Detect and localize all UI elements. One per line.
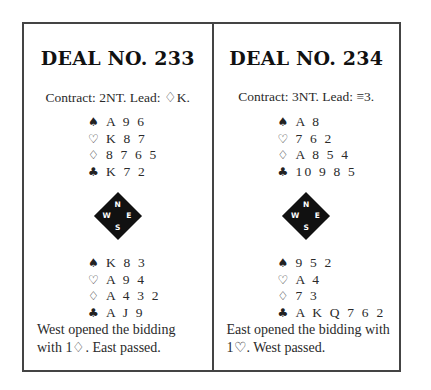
compass-west-label: W: [290, 211, 300, 220]
cards-clubs: 10 9 8 5: [296, 164, 357, 181]
hand-row-diamonds: ♢ A 8 5 4: [276, 147, 357, 164]
spade-icon: ♠: [86, 114, 101, 131]
hand-row-hearts: ♡ A 4: [276, 272, 386, 289]
hand-row-hearts: ♡ 7 6 2: [276, 131, 357, 148]
deal-title: DEAL NO. 233: [24, 47, 212, 69]
diamond-icon: ♢: [86, 147, 101, 164]
bidding-note: East opened the bidding with 1♡. West pa…: [227, 321, 392, 357]
cards-spades: K 8 3: [106, 255, 147, 272]
hand-row-spades: ♠ A 8: [276, 114, 357, 131]
spade-icon: ♠: [86, 255, 101, 272]
bidding-note: West opened the bidding with 1♢. East pa…: [37, 321, 204, 357]
north-hand: ♠ A 8 ♡ 7 6 2 ♢ A 8 5 4 ♣ 10 9 8 5: [276, 114, 357, 180]
diamond-icon: ♢: [276, 288, 291, 305]
hand-row-clubs: ♣ K 7 2: [86, 164, 159, 181]
compass-north-label: N: [113, 200, 123, 209]
hand-row-clubs: ♣ 10 9 8 5: [276, 164, 357, 181]
cards-clubs: K 7 2: [106, 164, 147, 181]
heart-icon: ♡: [276, 131, 291, 148]
diamond-icon: ♢: [276, 147, 291, 164]
compass-east-label: E: [124, 211, 134, 220]
spade-icon: ♠: [276, 255, 291, 272]
hand-row-diamonds: ♢ A 4 3 2: [86, 288, 161, 305]
south-hand: ♠ 9 5 2 ♡ A 4 ♢ 7 3 ♣ A K Q 7 6 2: [276, 255, 386, 321]
spade-icon: ♠: [276, 114, 291, 131]
compass-west-label: W: [102, 211, 112, 220]
club-icon: ♣: [86, 164, 101, 181]
hand-row-spades: ♠ 9 5 2: [276, 255, 386, 272]
cards-clubs: A K Q 7 6 2: [296, 305, 386, 322]
cards-clubs: A J 9: [106, 305, 145, 322]
heart-icon: ♡: [86, 272, 101, 289]
compass-south-label: S: [301, 223, 311, 232]
compass-icon: N W E S: [94, 192, 142, 240]
north-hand: ♠ A 9 6 ♡ K 8 7 ♢ 8 7 6 5 ♣ K 7 2: [86, 114, 159, 180]
hand-row-clubs: ♣ A K Q 7 6 2: [276, 305, 386, 322]
deal-panel-234: DEAL NO. 234 Contract: 3NT. Lead: ≡3. ♠ …: [212, 24, 400, 370]
cards-hearts: K 8 7: [106, 131, 147, 148]
deals-frame: DEAL NO. 233 Contract: 2NT. Lead: ♢K. ♠ …: [22, 22, 401, 372]
cards-spades: 9 5 2: [296, 255, 334, 272]
cards-diamonds: A 4 3 2: [106, 288, 161, 305]
south-hand: ♠ K 8 3 ♡ A 9 4 ♢ A 4 3 2 ♣ A J 9: [86, 255, 161, 321]
hand-row-spades: ♠ A 9 6: [86, 114, 159, 131]
cards-diamonds: A 8 5 4: [296, 147, 351, 164]
compass-icon: N W E S: [282, 192, 330, 240]
club-icon: ♣: [276, 164, 291, 181]
contract-line: Contract: 2NT. Lead: ♢K.: [24, 89, 212, 106]
cards-hearts: A 4: [296, 272, 322, 289]
cards-spades: A 9 6: [106, 114, 146, 131]
hand-row-diamonds: ♢ 8 7 6 5: [86, 147, 159, 164]
hand-row-diamonds: ♢ 7 3: [276, 288, 386, 305]
deal-panel-233: DEAL NO. 233 Contract: 2NT. Lead: ♢K. ♠ …: [24, 24, 212, 370]
heart-icon: ♡: [86, 131, 101, 148]
compass-north-label: N: [301, 200, 311, 209]
cards-diamonds: 8 7 6 5: [106, 147, 159, 164]
heart-icon: ♡: [276, 272, 291, 289]
club-icon: ♣: [276, 305, 291, 322]
cards-diamonds: 7 3: [296, 288, 319, 305]
hand-row-hearts: ♡ K 8 7: [86, 131, 159, 148]
club-icon: ♣: [86, 305, 101, 322]
hand-row-hearts: ♡ A 9 4: [86, 272, 161, 289]
compass-east-label: E: [312, 211, 322, 220]
cards-hearts: A 9 4: [106, 272, 146, 289]
cards-hearts: 7 6 2: [296, 131, 334, 148]
contract-line: Contract: 3NT. Lead: ≡3.: [214, 89, 400, 105]
hand-row-spades: ♠ K 8 3: [86, 255, 161, 272]
diamond-icon: ♢: [86, 288, 101, 305]
deal-title: DEAL NO. 234: [214, 47, 400, 69]
compass-south-label: S: [113, 223, 123, 232]
hand-row-clubs: ♣ A J 9: [86, 305, 161, 322]
cards-spades: A 8: [296, 114, 322, 131]
